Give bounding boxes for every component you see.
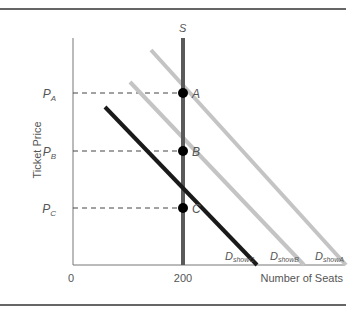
demand-show-c-label: DshowC [225,250,255,263]
point-b-label: B [192,145,200,159]
point-a [178,88,188,98]
y-tick-pb: PB [43,145,57,161]
x-axis-label: Number of Seats [260,272,343,284]
point-b [178,146,188,156]
point-a-label: A [191,87,200,101]
x-tick-0: 0 [68,272,74,284]
supply-demand-chart: A B C S PA PB PC 0 200 Number of Seats T… [0,0,360,309]
demand-show-b-label: DshowB [270,250,299,263]
supply-label: S [179,22,187,34]
demand-show-b [130,82,304,265]
demand-show-a-label: DshowA [315,250,344,263]
y-axis-label: Ticket Price [31,121,43,178]
y-tick-pc: PC [42,202,56,218]
demand-show-a [151,50,346,265]
y-tick-pa: PA [43,87,56,103]
x-tick-200: 200 [174,272,192,284]
point-c [178,203,188,213]
point-c-label: C [192,202,201,216]
